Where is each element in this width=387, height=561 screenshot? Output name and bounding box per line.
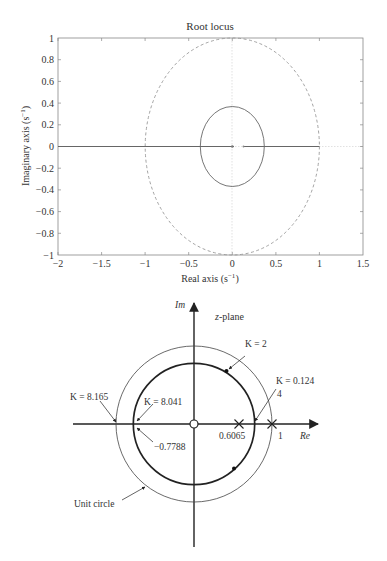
z-plane-diagram: Im z-plane K = 2 K = 0.124 4 K = 8.165 K… [70, 300, 318, 547]
svg-text:0.8: 0.8 [42, 54, 55, 65]
svg-text:−0.2: −0.2 [36, 163, 54, 174]
svg-text:−0.8: −0.8 [36, 228, 54, 239]
re-label: Re [299, 431, 310, 441]
p06065-label: 0.6065 [219, 431, 245, 441]
conjugate-point [232, 467, 236, 471]
svg-text:−0.4: −0.4 [36, 184, 54, 195]
svg-text:−1: −1 [140, 258, 151, 269]
k0124-label: K = 0.124 [276, 376, 315, 386]
neg07788-arrow [137, 428, 153, 442]
svg-text:−0.5: −0.5 [180, 258, 198, 269]
y-tick-labels: 1 0.8 0.6 0.4 0.2 0 −0.2 −0.4 −0.6 −0.8 … [36, 33, 54, 261]
svg-text:0.5: 0.5 [270, 258, 283, 269]
svg-text:−1.5: −1.5 [93, 258, 111, 269]
zero-marker-icon [190, 420, 198, 428]
figure: Root locus −2 [0, 0, 387, 561]
svg-text:0: 0 [230, 258, 235, 269]
y-axis-label: Imaginary axis (s−1) [19, 106, 32, 186]
svg-text:1.5: 1.5 [357, 258, 370, 269]
pole-marker [243, 146, 245, 148]
p1-label: 1 [278, 431, 283, 441]
origin-marker [231, 145, 234, 148]
k2-point [225, 369, 229, 373]
svg-text:1: 1 [49, 33, 54, 44]
svg-text:1: 1 [317, 258, 322, 269]
x-tick-labels: −2 −1.5 −1 −0.5 0 0.5 1 1.5 [53, 258, 370, 269]
svg-text:0.2: 0.2 [42, 119, 55, 130]
zplane-label: z-plane [214, 311, 244, 322]
unit-circle-arrow [122, 487, 145, 500]
svg-text:−2: −2 [53, 258, 64, 269]
k0124-sub-label: 4 [277, 389, 282, 399]
root-locus-plot: Root locus −2 [19, 20, 369, 285]
im-label: Im [174, 300, 185, 310]
unit-circle-label: Unit circle [74, 499, 114, 509]
svg-text:−0.6: −0.6 [36, 206, 54, 217]
k2-label: K = 2 [245, 339, 267, 349]
k8041-label: K = 8.041 [144, 397, 183, 407]
svg-text:0.6: 0.6 [42, 76, 55, 87]
svg-text:0: 0 [49, 141, 54, 152]
x-axis-label: Real axis (s−1) [181, 272, 238, 285]
svg-text:0.4: 0.4 [42, 98, 55, 109]
svg-text:−1: −1 [43, 250, 54, 261]
plot-title: Root locus [186, 20, 233, 32]
k8165-label: K = 8.165 [70, 392, 109, 402]
k8165-arrow [100, 401, 116, 422]
neg07788-label: −0.7788 [154, 442, 186, 452]
